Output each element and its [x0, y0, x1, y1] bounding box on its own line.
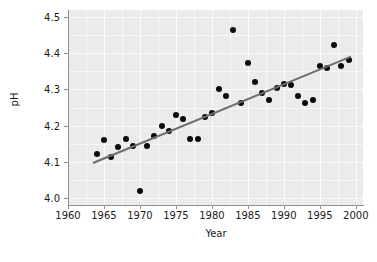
gridline-horizontal-minor [68, 108, 363, 109]
x-tick-label: 1980 [199, 210, 224, 221]
x-tick-label: 1990 [271, 210, 296, 221]
y-tick [64, 53, 68, 54]
y-axis-line [68, 10, 69, 206]
data-point [187, 136, 193, 142]
gridline-horizontal [68, 53, 363, 54]
x-tick [248, 205, 249, 209]
x-tick [320, 205, 321, 209]
x-tick-label: 1970 [127, 210, 152, 221]
gridline-horizontal-minor [68, 71, 363, 72]
gridline-horizontal-minor [68, 35, 363, 36]
data-point [144, 143, 150, 149]
data-point [137, 188, 143, 194]
x-tick [356, 205, 357, 209]
x-tick [140, 205, 141, 209]
data-point [94, 151, 100, 157]
plot-panel [68, 10, 363, 205]
x-axis-label: Year [68, 228, 364, 239]
gridline-horizontal [68, 198, 363, 199]
y-tick-label: 4.4 [32, 48, 60, 59]
data-point [302, 100, 308, 106]
data-point [338, 63, 344, 69]
x-tick [68, 205, 69, 209]
y-tick [64, 89, 68, 90]
x-tick-label: 1960 [55, 210, 80, 221]
data-point [331, 42, 337, 48]
x-tick-label: 1975 [163, 210, 188, 221]
gridline-horizontal [68, 17, 363, 18]
y-tick [64, 17, 68, 18]
y-tick-label: 4.5 [32, 12, 60, 23]
data-point [115, 144, 121, 150]
data-point [123, 136, 129, 142]
data-point [245, 60, 251, 66]
data-point [173, 112, 179, 118]
y-tick-label: 4.3 [32, 84, 60, 95]
gridline-horizontal-minor [68, 144, 363, 145]
data-point [266, 97, 272, 103]
data-point [295, 93, 301, 99]
data-point [180, 116, 186, 122]
x-tick-label: 2000 [343, 210, 368, 221]
x-tick [176, 205, 177, 209]
data-point [216, 86, 222, 92]
y-tick [64, 162, 68, 163]
y-tick-label: 4.1 [32, 156, 60, 167]
x-tick [284, 205, 285, 209]
y-tick-label: 4.0 [32, 192, 60, 203]
y-axis-label: pH [9, 80, 20, 120]
y-tick [64, 126, 68, 127]
data-point [159, 123, 165, 129]
gridline-horizontal [68, 126, 363, 127]
y-tick [64, 198, 68, 199]
x-tick [104, 205, 105, 209]
x-tick-label: 1965 [91, 210, 116, 221]
x-tick [212, 205, 213, 209]
data-point [195, 136, 201, 142]
gridline-horizontal-minor [68, 180, 363, 181]
chart-figure: 196019651970197519801985199019952000 4.0… [0, 0, 377, 262]
x-tick-label: 1985 [235, 210, 260, 221]
gridline-horizontal [68, 162, 363, 163]
data-point [230, 27, 236, 33]
data-point [252, 79, 258, 85]
data-point [101, 137, 107, 143]
y-tick-label: 4.2 [32, 120, 60, 131]
data-point [223, 93, 229, 99]
data-point [310, 97, 316, 103]
x-tick-label: 1995 [307, 210, 332, 221]
